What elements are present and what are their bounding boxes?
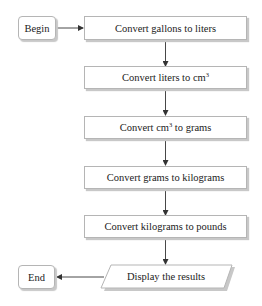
- step-label: Convert cm3 to grams: [120, 122, 212, 133]
- step-convert-grams-to-kilograms: Convert grams to kilograms: [84, 166, 247, 189]
- step-convert-kilograms-to-pounds: Convert kilograms to pounds: [84, 215, 247, 238]
- step-convert-gallons-to-liters: Convert gallons to liters: [84, 16, 247, 40]
- output-label: Display the results: [127, 271, 205, 282]
- step-label: Convert grams to kilograms: [107, 172, 225, 183]
- end-label: End: [28, 272, 45, 283]
- begin-label: Begin: [24, 23, 49, 34]
- step-convert-liters-to-cm3: Convert liters to cm3: [84, 66, 247, 89]
- step-label: Convert gallons to liters: [115, 23, 216, 34]
- step-label: Convert kilograms to pounds: [104, 221, 226, 232]
- begin-terminal: Begin: [18, 16, 56, 40]
- output-display-results: Display the results: [98, 262, 238, 292]
- step-label: Convert liters to cm3: [122, 72, 209, 83]
- end-terminal: End: [18, 265, 55, 289]
- step-convert-cm3-to-grams: Convert cm3 to grams: [84, 116, 247, 139]
